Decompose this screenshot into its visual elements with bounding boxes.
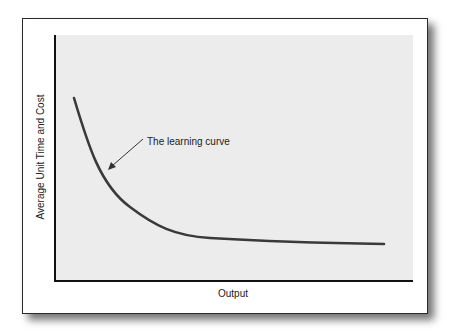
learning-curve-chart: The learning curve Output Average Unit T… (0, 0, 456, 333)
y-axis-label: Average Unit Time and Cost (35, 94, 46, 219)
x-axis-label: Output (218, 288, 248, 299)
curve-annotation-label: The learning curve (147, 136, 230, 147)
